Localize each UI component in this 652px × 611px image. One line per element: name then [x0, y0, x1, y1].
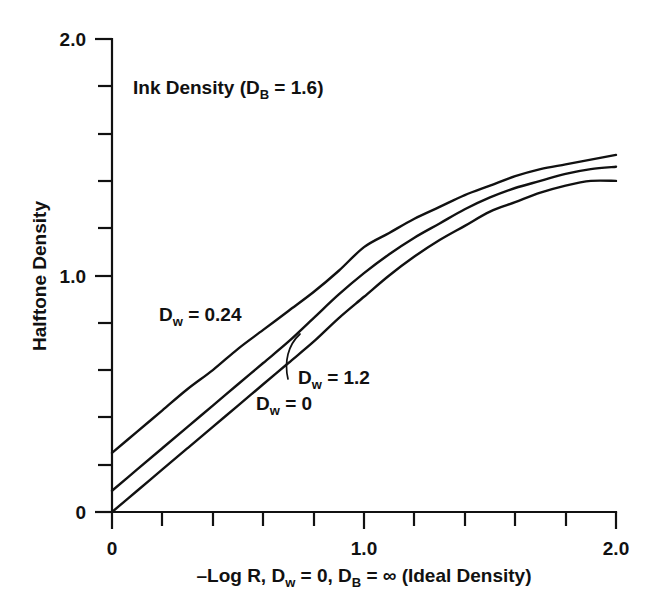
chart-svg: 2.0 1.0 0 0 1.0 2.0 Halftone Density –Lo…	[0, 0, 652, 611]
curve-dw-0	[112, 181, 616, 512]
x-axis-title-part3: = ∞ (Ideal Density)	[361, 565, 531, 586]
y-tick-label-0: 0	[75, 502, 86, 523]
ink-density-annotation-tail: = 1.6)	[269, 77, 323, 98]
curve-label-dw-1.2: Dw = 1.2	[298, 367, 370, 392]
y-axis-tick-labels: 2.0 1.0 0	[60, 29, 86, 523]
ink-density-annotation: Ink Density (DB = 1.6)	[133, 77, 324, 102]
x-axis-tick-labels: 0 1.0 2.0	[107, 538, 630, 559]
curve-label-dw-0-p2: = 0	[280, 393, 312, 414]
x-axis-title: –Log R, Dw = 0, DB = ∞ (Ideal Density)	[196, 565, 531, 590]
curve-label-dw-0.24: Dw = 0.24	[159, 304, 242, 329]
x-axis-title-part2: = 0, D	[295, 565, 352, 586]
curve-label-dw-1.2-p1: D	[298, 367, 312, 388]
x-tick-label-1.0: 1.0	[351, 538, 377, 559]
x-tick-label-0: 0	[107, 538, 118, 559]
y-axis-title: Halftone Density	[29, 201, 50, 351]
data-curves	[112, 155, 616, 512]
x-axis-title-part1: –Log R, D	[196, 565, 285, 586]
chart-axes	[112, 39, 616, 512]
curve-label-dw-0-p1: D	[256, 393, 270, 414]
x-tick-label-2.0: 2.0	[603, 538, 629, 559]
x-axis-ticks	[112, 512, 616, 529]
halftone-density-chart: 2.0 1.0 0 0 1.0 2.0 Halftone Density –Lo…	[0, 0, 652, 611]
y-axis-ticks	[95, 39, 112, 512]
ink-density-annotation-sub: B	[260, 87, 269, 102]
x-axis-title-sub-b: B	[352, 575, 361, 590]
curve-dw-1.2	[112, 167, 616, 491]
curve-label-dw-0.24-p1: D	[159, 304, 173, 325]
ink-density-annotation-main: Ink Density (D	[133, 77, 260, 98]
y-tick-label-2.0: 2.0	[60, 29, 86, 50]
curve-label-dw-1.2-p2: = 1.2	[322, 367, 370, 388]
curve-label-dw-0.24-p2: = 0.24	[183, 304, 242, 325]
curve-label-dw-0: Dw = 0	[256, 393, 312, 418]
y-tick-label-1.0: 1.0	[60, 266, 86, 287]
